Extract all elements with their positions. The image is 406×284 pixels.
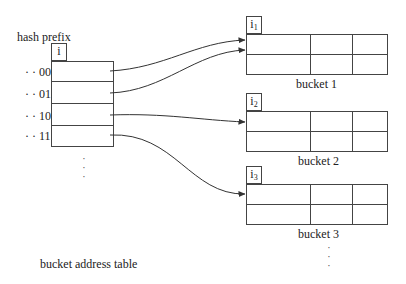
arrow-01-to-bucket-1: [110, 50, 245, 93]
bucket-2-caption: bucket 2: [298, 155, 339, 167]
bucket-1-caption: bucket 1: [296, 78, 337, 90]
bucket-address-table: [52, 62, 114, 147]
prefix-label-11: · · 11: [25, 130, 51, 142]
arrow-11-to-bucket-3: [110, 135, 245, 194]
bucket-address-table-caption: bucket address table: [40, 258, 137, 270]
table-continuation-dots: ···: [81, 154, 87, 181]
buckets-continuation-dots: ···: [326, 243, 332, 270]
bucket-2-grid: [247, 112, 388, 152]
arrow-00-to-bucket-1: [110, 40, 245, 71]
global-depth-label: i: [57, 44, 60, 58]
global-depth-box: i: [51, 43, 67, 61]
bucket-1-depth-box: i1: [246, 16, 262, 34]
arrow-10-to-bucket-2: [110, 115, 245, 122]
prefix-label-10: · · 10: [25, 110, 51, 122]
bucket-3-depth-subscript: 3: [254, 173, 258, 182]
bucket-1-grid: [247, 35, 388, 75]
prefix-label-00: · · 00: [25, 66, 51, 78]
bucket-3-caption: bucket 3: [298, 228, 339, 240]
prefix-label-01: · · 01: [25, 88, 51, 100]
bucket-1-depth-subscript: 1: [254, 23, 258, 32]
hash-prefix-label: hash prefix: [17, 31, 71, 43]
bucket-2-depth-subscript: 2: [254, 100, 258, 109]
bucket-3-depth-box: i3: [246, 166, 262, 184]
bucket-3-grid: [247, 185, 388, 225]
bucket-2-depth-box: i2: [246, 93, 262, 111]
